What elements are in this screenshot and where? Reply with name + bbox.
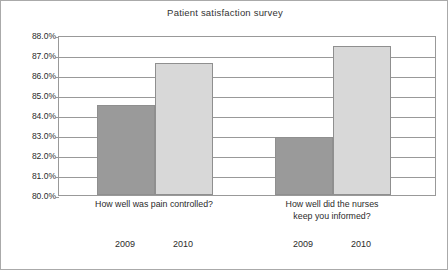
y-tick-label: 82.0% bbox=[4, 151, 56, 161]
y-tick-mark bbox=[55, 57, 59, 58]
y-tick-mark bbox=[55, 177, 59, 178]
category-label-group-1: How well did the nurseskeep you informed… bbox=[227, 199, 437, 222]
y-tick-label: 83.0% bbox=[4, 131, 56, 141]
bar-how-well-was-2009[interactable] bbox=[97, 105, 155, 195]
chart-title: Patient satisfaction survey bbox=[1, 7, 448, 18]
y-tick-label: 86.0% bbox=[4, 71, 56, 81]
year-label-2010-group-1: 2010 bbox=[331, 239, 391, 249]
y-tick-mark bbox=[55, 77, 59, 78]
year-label-2009-group-1: 2009 bbox=[273, 239, 333, 249]
y-tick-mark bbox=[55, 37, 59, 38]
y-tick-mark bbox=[55, 157, 59, 158]
y-tick-label: 87.0% bbox=[4, 51, 56, 61]
bar-how-well-did-2010[interactable] bbox=[333, 46, 391, 195]
y-tick-mark bbox=[55, 97, 59, 98]
y-axis: 88.0%87.0%86.0%85.0%84.0%83.0%82.0%81.0%… bbox=[1, 36, 56, 196]
y-tick-label: 81.0% bbox=[4, 171, 56, 181]
x-axis-category-labels: How well was pain controlled?How well di… bbox=[58, 199, 436, 229]
y-tick-label: 88.0% bbox=[4, 31, 56, 41]
plot-area bbox=[58, 36, 436, 196]
y-tick-mark bbox=[55, 137, 59, 138]
category-label-line: How well did the nurses bbox=[227, 199, 437, 211]
y-tick-mark bbox=[55, 197, 59, 198]
year-label-2010-group-0: 2010 bbox=[153, 239, 213, 249]
y-tick-label: 85.0% bbox=[4, 91, 56, 101]
x-axis-series-labels: 2009201020092010 bbox=[58, 239, 436, 255]
y-tick-label: 84.0% bbox=[4, 111, 56, 121]
y-tick-mark bbox=[55, 117, 59, 118]
chart-figure: Patient satisfaction survey 88.0%87.0%86… bbox=[0, 0, 448, 270]
year-label-2009-group-0: 2009 bbox=[95, 239, 155, 249]
category-label-line: keep you informed? bbox=[227, 211, 437, 223]
bar-how-well-did-2009[interactable] bbox=[275, 137, 333, 195]
bar-how-well-was-2010[interactable] bbox=[155, 63, 213, 195]
